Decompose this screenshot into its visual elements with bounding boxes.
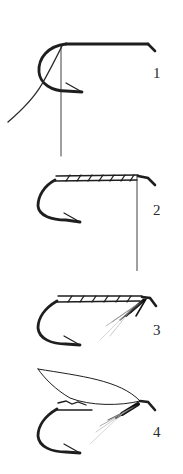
step-label-1: 1 xyxy=(153,66,161,81)
step-label-2: 2 xyxy=(153,203,161,218)
step-3-hackle xyxy=(100,299,146,340)
step-1-thread xyxy=(8,46,62,156)
step-1-hook xyxy=(39,44,155,92)
step-4-wing xyxy=(38,369,140,404)
step-4-hook xyxy=(38,401,155,453)
step-4-hackle xyxy=(90,404,138,444)
step-label-3: 3 xyxy=(153,323,161,338)
step-label-4: 4 xyxy=(153,425,161,440)
